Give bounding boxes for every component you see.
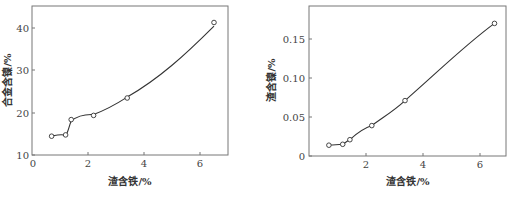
- right-ytick-0.15: 0.15: [283, 34, 305, 45]
- right-ytick-0.05: 0.05: [283, 112, 305, 123]
- right-xtick-2: 2: [363, 159, 369, 170]
- right-data-points: [327, 21, 497, 147]
- left-xtick-2: 2: [85, 158, 91, 169]
- right-xtick-4: 4: [420, 159, 426, 170]
- left-chart: 10 20 30 40 0 2 4 6 渣含铁/% 合金含镍/%: [1, 6, 228, 187]
- right-ytick-0.10: 0.10: [283, 73, 305, 84]
- right-xtick-6: 6: [477, 159, 483, 170]
- left-ytick-20: 20: [16, 108, 29, 119]
- left-series-curve: [52, 26, 214, 136]
- left-y-axis-label: 合金含镍/%: [1, 53, 13, 108]
- left-xtick-6: 6: [197, 158, 203, 169]
- right-x-axis-label: 渣含铁/%: [386, 175, 430, 187]
- left-x-axis-label: 渣含铁/%: [108, 175, 152, 187]
- right-ytick-0: 0: [299, 151, 305, 162]
- left-ytick-10: 10: [16, 150, 29, 161]
- left-xtick-4: 4: [141, 158, 147, 169]
- left-xtick-0: 0: [30, 158, 36, 169]
- figure: 10 20 30 40 0 2 4 6 渣含铁/% 合金含镍/% 0: [0, 0, 507, 199]
- left-data-points: [49, 20, 216, 138]
- right-y-axis-label: 渣含镍/%: [265, 58, 277, 102]
- left-ytick-30: 30: [16, 65, 29, 76]
- left-plot-frame: [32, 6, 228, 155]
- right-chart: 0 0.05 0.10 0.15 2 4 6 渣含铁/% 渣含镍/%: [265, 6, 506, 187]
- right-series-curve: [329, 23, 495, 145]
- right-plot-frame: [309, 6, 506, 156]
- left-ytick-40: 40: [16, 23, 29, 34]
